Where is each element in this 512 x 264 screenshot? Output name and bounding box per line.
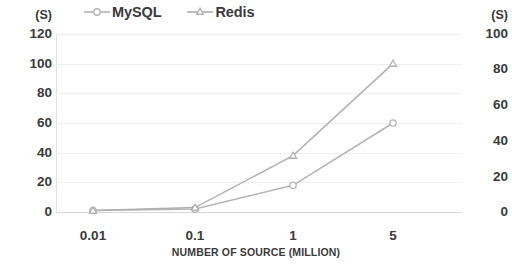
series-mysql[interactable] <box>90 120 396 214</box>
series-line-redis <box>93 64 393 211</box>
series-redis[interactable] <box>89 60 396 213</box>
y-axis-left-tick-20: 20 <box>6 175 52 189</box>
chart-container: MySQL Redis (S) 120 100 80 60 40 20 0 (S… <box>0 0 512 264</box>
y-axis-right-tick-80: 80 <box>462 62 508 76</box>
legend-label-mysql: MySQL <box>112 4 161 20</box>
x-axis-tick-1: 0.1 <box>160 228 230 243</box>
data-point-mysql-2[interactable] <box>290 182 296 188</box>
y-axis-left-unit: (S) <box>6 8 52 22</box>
y-axis-left-tick-40: 40 <box>6 146 52 160</box>
y-axis-left: (S) 120 100 80 60 40 20 0 <box>6 0 52 264</box>
x-axis-title: NUMBER OF SOURCE (MILLION) <box>0 246 512 258</box>
plot-area <box>56 34 462 212</box>
y-axis-left-tick-0: 0 <box>6 205 52 219</box>
y-axis-left-tick-120: 120 <box>6 27 52 41</box>
x-axis-tick-2: 1 <box>258 228 328 243</box>
y-axis-right-unit: (S) <box>462 8 508 22</box>
legend-entry-mysql[interactable]: MySQL <box>84 4 161 20</box>
legend-marker-triangle-icon <box>187 6 213 18</box>
data-point-mysql-3[interactable] <box>390 120 396 126</box>
y-axis-right-tick-40: 40 <box>462 134 508 148</box>
data-point-redis-1[interactable] <box>191 204 198 210</box>
y-axis-right: (S) 100 80 60 40 20 0 <box>462 0 508 264</box>
x-axis-tick-0: 0.01 <box>58 228 128 243</box>
y-axis-left-tick-60: 60 <box>6 116 52 130</box>
legend-marker-circle-icon <box>84 6 110 18</box>
y-axis-left-tick-80: 80 <box>6 86 52 100</box>
legend-label-redis: Redis <box>215 4 254 20</box>
y-axis-right-tick-100: 100 <box>462 27 508 41</box>
y-axis-left-tick-100: 100 <box>6 57 52 71</box>
x-axis-line <box>56 212 462 213</box>
y-axis-right-tick-0: 0 <box>462 205 508 219</box>
chart-legend: MySQL Redis <box>84 2 254 22</box>
legend-entry-redis[interactable]: Redis <box>187 4 254 20</box>
y-axis-right-tick-20: 20 <box>462 170 508 184</box>
x-axis-tick-3: 5 <box>358 228 428 243</box>
y-axis-right-tick-60: 60 <box>462 98 508 112</box>
series-line-mysql <box>93 123 393 211</box>
data-point-redis-3[interactable] <box>389 60 396 66</box>
series-layer <box>56 34 462 212</box>
